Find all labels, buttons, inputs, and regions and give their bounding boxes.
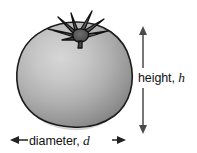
height-label: height, h xyxy=(138,71,185,85)
height-variable: h xyxy=(178,70,185,85)
tomato-dimension-figure: height, h diameter, d xyxy=(0,0,197,153)
diameter-label: diameter, d xyxy=(29,134,90,148)
height-label-prefix: height, xyxy=(138,71,178,85)
diameter-variable: d xyxy=(83,133,90,148)
diameter-label-prefix: diameter, xyxy=(29,134,83,148)
